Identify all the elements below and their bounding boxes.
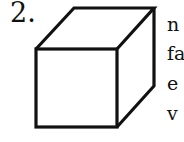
text-fragment: n <box>167 14 179 34</box>
cube-icon <box>0 0 184 142</box>
text-fragment: v <box>167 103 178 123</box>
text-fragment: fa <box>167 43 184 63</box>
text-fragment: e <box>167 73 178 93</box>
